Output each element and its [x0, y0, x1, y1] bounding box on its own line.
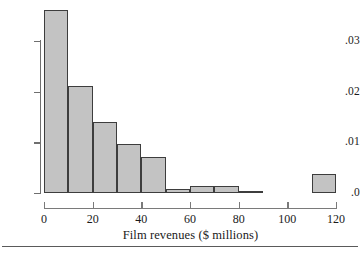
x-axis-tick-mark [239, 202, 240, 209]
x-axis-tick-mark [93, 202, 94, 209]
x-axis-tick-mark [336, 202, 337, 209]
histogram-bar-bin-50-60 [166, 189, 190, 193]
x-axis-tick-label: 60 [170, 212, 210, 226]
y-axis-tick-mark [34, 142, 41, 143]
histogram-bar-bin-60-70 [190, 186, 214, 193]
x-axis-tick-label: 80 [219, 212, 259, 226]
histogram-figure: .0.01.02.03 020406080100120 Film revenue… [0, 0, 360, 258]
histogram-bar-bin-20-30 [93, 122, 117, 193]
x-axis-tick-label: 100 [267, 212, 307, 226]
y-axis-tick-mark [34, 41, 41, 42]
y-axis-tick-mark [34, 92, 41, 93]
histogram-bar-bin-10-20 [68, 86, 92, 193]
x-axis-tick-label: 120 [316, 212, 356, 226]
histogram-bar-bin-30-40 [117, 144, 141, 193]
plot-area [44, 41, 336, 193]
histogram-bar-bin-80-90 [239, 191, 263, 193]
page-divider-rule [2, 246, 358, 247]
y-axis-spine [40, 40, 41, 194]
histogram-bar-bin-70-80 [214, 186, 238, 193]
x-axis-tick-label: 0 [24, 212, 64, 226]
histogram-bar-bin-40-50 [141, 157, 165, 193]
x-axis-tick-mark [287, 202, 288, 209]
x-axis-tick-mark [44, 202, 45, 209]
x-axis-tick-mark [190, 202, 191, 209]
x-axis-tick-mark [141, 202, 142, 209]
x-axis-tick-label: 20 [73, 212, 113, 226]
histogram-bar-bin-110-120 [312, 174, 336, 193]
x-axis-tick-label: 40 [121, 212, 161, 226]
y-axis-tick-mark [34, 193, 41, 194]
x-axis-title: Film revenues ($ millions) [44, 228, 337, 242]
histogram-bar-bin-0-10 [44, 10, 68, 193]
